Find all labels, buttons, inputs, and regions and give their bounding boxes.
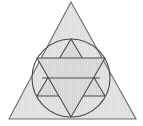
geometric-figure-canvas [0, 0, 143, 126]
geometry-diagram [0, 0, 143, 126]
